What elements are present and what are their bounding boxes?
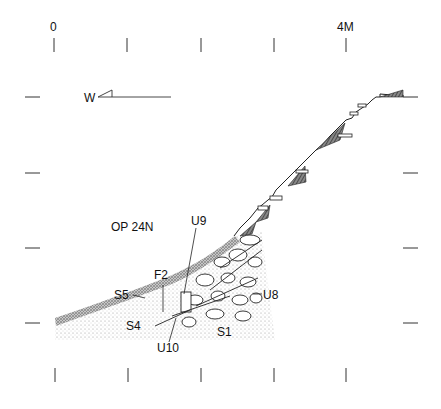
left-scale-ticks: [25, 97, 40, 323]
scale-end-label: 4M: [337, 20, 354, 34]
orientation-arrow-icon: [98, 90, 171, 97]
scale-start-label: 0: [50, 20, 57, 34]
right-scale-ticks: [403, 97, 418, 323]
feature-label-u8: U8: [263, 288, 279, 302]
slope-shading: [240, 90, 403, 236]
top-scale-ticks: [54, 38, 346, 52]
feature-label-f2: F2: [154, 268, 168, 282]
section-drawing: 0 4M W: [0, 0, 441, 409]
orientation-label: W: [84, 91, 96, 105]
feature-label-s5: S5: [114, 288, 129, 302]
feature-label-u9: U9: [191, 214, 207, 228]
feature-label-s4: S4: [126, 319, 141, 333]
feature-label-u10: U10: [157, 341, 179, 355]
operation-label: OP 24N: [111, 220, 153, 234]
feature-label-s1: S1: [217, 325, 232, 339]
slope-outline: [234, 94, 404, 236]
bottom-scale-ticks: [55, 368, 346, 382]
